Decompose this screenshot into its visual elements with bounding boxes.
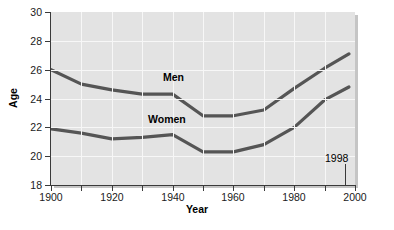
x-axis-tick-label: 1920 [89, 192, 135, 203]
x-axis-tick [142, 186, 143, 191]
y-axis-tick-label: 18 [30, 180, 42, 190]
y-axis-tick-label: 20 [30, 151, 42, 161]
annotation-1998-label: 1998 [325, 152, 348, 164]
y-axis-tick-label: 26 [30, 65, 42, 75]
gridline-horizontal [51, 99, 355, 100]
plot-area [51, 12, 355, 185]
x-axis-tick [264, 186, 265, 191]
x-axis-tick-label: 1900 [28, 192, 74, 203]
y-axis-tick [45, 41, 51, 42]
y-axis-tick [45, 99, 51, 100]
x-axis-tick [203, 186, 204, 191]
gridline-horizontal [51, 156, 355, 157]
y-axis-tick-label: 22 [30, 122, 42, 132]
y-axis-tick [45, 156, 51, 157]
line-series-men [51, 54, 349, 116]
y-axis-tick [45, 12, 51, 13]
line-series-women [51, 87, 349, 152]
chart-figure: 18202224262830 190019201940196019802000 … [0, 0, 394, 230]
x-axis-tick-label: 1980 [271, 192, 317, 203]
gridline-horizontal [51, 41, 355, 42]
x-axis-tick [325, 186, 326, 191]
y-axis-tick [45, 70, 51, 71]
x-axis-tick-label: 1940 [150, 192, 196, 203]
x-axis-tick [81, 186, 82, 191]
y-axis-tick-label: 30 [30, 7, 42, 17]
annotation-1998-leader-line [345, 164, 346, 185]
y-axis-tick [45, 127, 51, 128]
gridline-horizontal [51, 70, 355, 71]
gridline-horizontal [51, 127, 355, 128]
series-label-women: Women [148, 113, 186, 125]
y-axis-tick-label: 28 [30, 36, 42, 46]
y-axis-tick-label: 24 [30, 94, 42, 104]
x-axis-title: Year [0, 203, 394, 215]
x-axis-tick-label: 2000 [332, 192, 378, 203]
y-axis-title: Age [7, 78, 19, 118]
series-label-men: Men [163, 71, 184, 83]
x-axis-tick-label: 1960 [210, 192, 256, 203]
